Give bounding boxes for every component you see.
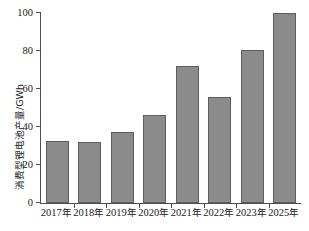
bar — [208, 97, 231, 203]
bar — [111, 132, 134, 203]
y-axis-tick-label: 40 — [23, 120, 34, 133]
x-axis-tick-label: 2018年 — [73, 206, 106, 220]
bar — [78, 142, 101, 203]
y-axis-tick-label: 80 — [23, 44, 34, 57]
y-axis-tick-label: 60 — [23, 82, 34, 95]
bar-series — [41, 13, 301, 203]
bar — [241, 50, 264, 203]
y-axis-tick-label: 20 — [23, 158, 34, 171]
x-axis-tick-label: 2019年 — [105, 206, 138, 220]
x-axis-tick-label: 2023年 — [235, 206, 268, 220]
bar — [46, 141, 69, 203]
x-axis-tick-label: 2021年 — [170, 206, 203, 220]
y-axis-tick-label: 0 — [28, 196, 33, 209]
x-axis-tick-labels: 2017年2018年2019年2020年2021年2022年2023年2025年 — [40, 206, 301, 222]
x-axis-tick-label: 2017年 — [40, 206, 73, 220]
x-axis-tick-label: 2025年 — [268, 206, 301, 220]
plot-area: 020406080100 — [40, 13, 301, 204]
bar — [176, 66, 199, 203]
y-axis-tick-label: 100 — [17, 6, 33, 19]
x-axis-tick-label: 2022年 — [203, 206, 236, 220]
bar — [143, 115, 166, 203]
bar-chart: 消费型锂电池产量/GWh 020406080100 2017年2018年2019… — [0, 0, 309, 231]
bar — [273, 13, 296, 203]
x-axis-tick-label: 2020年 — [138, 206, 171, 220]
